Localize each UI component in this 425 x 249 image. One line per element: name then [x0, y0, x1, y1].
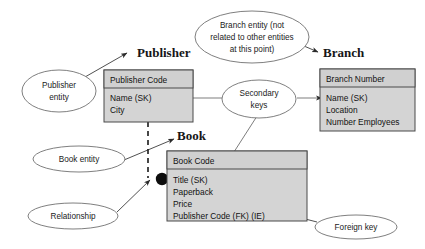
- callout-publisher-entity-line-0: Publisher: [42, 81, 76, 90]
- er-diagram-svg: Publisher Code Name (SK) City Publisher …: [0, 0, 425, 249]
- entity-branch-name: Branch: [323, 45, 365, 60]
- entity-publisher[interactable]: Publisher Code Name (SK) City: [104, 70, 193, 122]
- entity-branch-attribute-0: Name (SK): [326, 93, 368, 103]
- relationship-cardinality-dot: [156, 173, 168, 185]
- entity-book-attribute-2: Price: [173, 199, 192, 209]
- callout-secondary-keys-line-1: keys: [251, 101, 268, 110]
- callout-branch-entity-line-1: related to other entities: [210, 33, 293, 42]
- entity-branch-primary-key: Branch Number: [326, 74, 385, 84]
- entity-book-attribute-0: Title (SK): [173, 175, 208, 185]
- callout-book-entity[interactable]: Book entity: [33, 146, 125, 172]
- callout-secondary-keys-shape: [222, 80, 296, 118]
- connector-relationship: [117, 180, 150, 212]
- callout-relationship[interactable]: Relationship: [28, 203, 118, 229]
- callout-relationship-line-0: Relationship: [50, 212, 96, 221]
- callout-foreign-key[interactable]: Foreign key: [315, 215, 397, 239]
- entity-book-attribute-1: Paperback: [173, 187, 214, 197]
- callout-secondary-keys[interactable]: Secondary keys: [222, 80, 296, 118]
- entity-book-primary-key: Book Code: [173, 156, 215, 166]
- entity-publisher-attribute-0: Name (SK): [110, 93, 152, 103]
- callout-publisher-entity-line-1: entity: [49, 93, 69, 102]
- callout-publisher-entity[interactable]: Publisher entity: [22, 70, 96, 112]
- callout-book-entity-line-0: Book entity: [59, 155, 100, 164]
- entity-publisher-attribute-1: City: [110, 105, 125, 115]
- callout-branch-entity-line-0: Branch entity (not: [220, 21, 285, 30]
- entity-publisher-primary-key: Publisher Code: [110, 75, 168, 85]
- entity-book[interactable]: Book Code Title (SK) Paperback Price Pub…: [167, 151, 307, 221]
- entity-book-name: Book: [177, 128, 207, 143]
- entity-branch[interactable]: Branch Number Name (SK) Location Number …: [320, 69, 415, 131]
- entity-branch-attribute-2: Number Employees: [326, 117, 400, 127]
- entity-book-attribute-3: Publisher Code (FK) (IE): [173, 211, 265, 221]
- entity-branch-attribute-1: Location: [326, 105, 358, 115]
- callout-branch-entity-line-2: at this point): [230, 45, 275, 54]
- callout-secondary-keys-line-0: Secondary: [239, 89, 279, 98]
- callout-publisher-entity-shape: [22, 70, 96, 112]
- er-diagram-canvas: Publisher Code Name (SK) City Publisher …: [0, 0, 425, 249]
- callout-branch-entity[interactable]: Branch entity (not related to other enti…: [195, 11, 309, 63]
- callout-foreign-key-line-0: Foreign key: [335, 223, 379, 232]
- entity-publisher-name: Publisher: [137, 45, 191, 60]
